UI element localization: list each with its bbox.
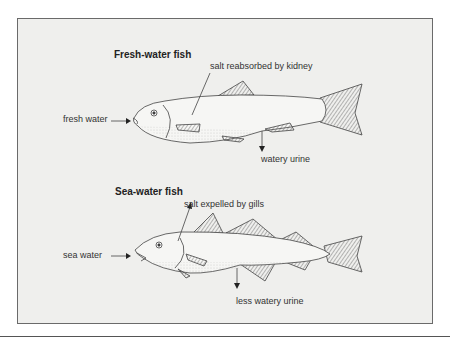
sea-water-input-label: sea water <box>63 250 102 260</box>
fresh-water-input-label: fresh water <box>63 114 108 124</box>
less-watery-urine-label: less watery urine <box>236 296 304 306</box>
salt-expelled-label: salt expelled by gills <box>184 199 264 209</box>
watery-urine-label: watery urine <box>261 154 310 164</box>
fresh-water-fish-title: Fresh-water fish <box>114 49 191 60</box>
fish-illustrations <box>0 0 450 341</box>
sea-water-fish-title: Sea-water fish <box>115 186 183 197</box>
bottom-rule <box>0 336 450 337</box>
sea-water-fish <box>111 202 362 289</box>
salt-reabsorbed-label: salt reabsorbed by kidney <box>210 61 313 71</box>
fresh-water-fish <box>111 73 362 152</box>
